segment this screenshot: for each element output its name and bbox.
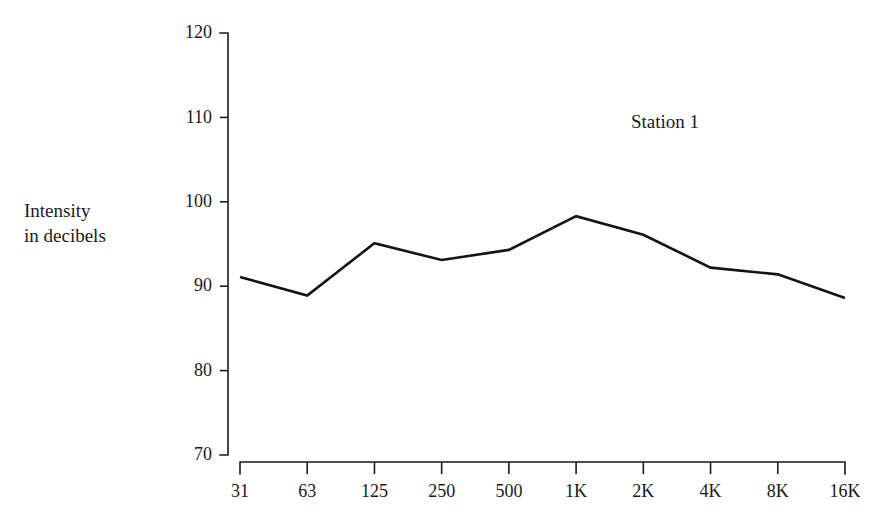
y-axis: 708090100110120: [185, 22, 228, 464]
x-axis-tick-label: 63: [298, 481, 316, 501]
x-axis-tick-label: 250: [428, 481, 455, 501]
x-axis-tick-label: 125: [361, 481, 388, 501]
x-axis-tick-label: 16K: [830, 481, 861, 501]
x-axis-tick-label: 8K: [767, 481, 789, 501]
x-axis-tick-label: 4K: [700, 481, 722, 501]
y-axis-title: Intensity in decibels: [24, 198, 184, 248]
y-axis-tick-label: 70: [194, 444, 212, 464]
x-axis: 31631252505001K2K4K8K16K: [231, 462, 861, 501]
x-axis-tick-label: 1K: [565, 481, 587, 501]
data-series-group: [240, 216, 845, 298]
data-series-line-1: [240, 216, 845, 298]
y-axis-tick-label: 110: [186, 107, 212, 127]
x-axis-tick-label: 31: [231, 481, 249, 501]
y-axis-tick-label: 90: [194, 275, 212, 295]
series-annotation-station-1: Station 1: [631, 111, 699, 133]
y-axis-tick-label: 100: [185, 191, 212, 211]
x-axis-tick-label: 2K: [632, 481, 654, 501]
y-axis-tick-label: 120: [185, 22, 212, 42]
chart-figure: Intensity in decibels Station 1 70809010…: [0, 0, 896, 525]
y-axis-spine: [220, 33, 228, 455]
x-axis-spine: [240, 462, 845, 474]
plot-area: 708090100110120 31631252505001K2K4K8K16K: [0, 0, 896, 525]
y-axis-tick-label: 80: [194, 360, 212, 380]
x-axis-tick-label: 500: [495, 481, 522, 501]
